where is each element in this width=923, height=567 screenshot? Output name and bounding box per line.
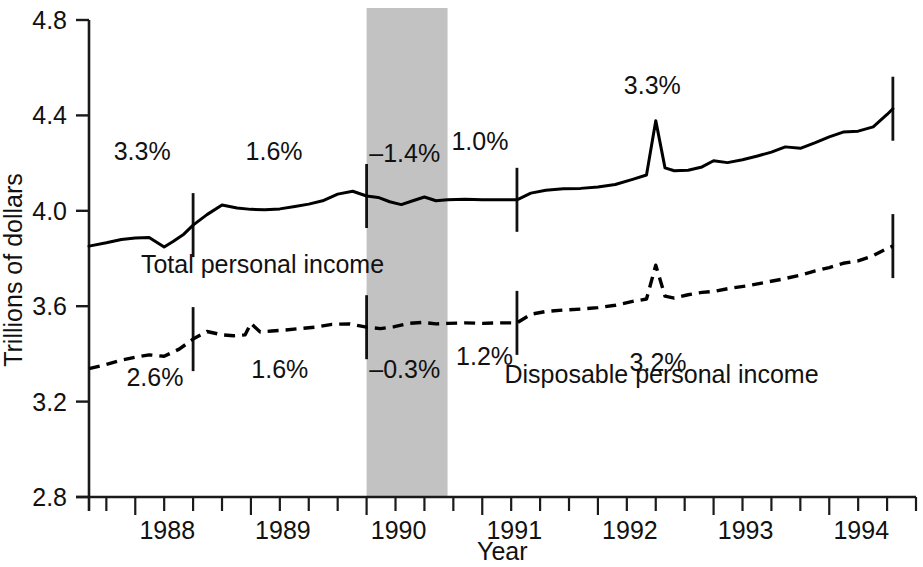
y-tick-label: 3.2 — [32, 388, 67, 416]
x-tick-label: 1994 — [833, 516, 889, 544]
growth-rate-label: 1.6% — [246, 137, 303, 165]
x-axis-title: Year — [477, 537, 528, 565]
growth-rate-label: 2.6% — [126, 363, 183, 391]
x-tick-label: 1992 — [602, 516, 658, 544]
x-tick-label: 1988 — [139, 516, 195, 544]
growth-rate-label: 3.3% — [114, 137, 171, 165]
segment-divider-bars — [193, 77, 893, 371]
series-name-label: Total personal income — [141, 250, 384, 278]
y-tick-label: 4.8 — [32, 6, 67, 34]
growth-rate-label: –0.3% — [369, 355, 440, 383]
income-line-chart: 2.83.23.64.04.44.8 198819891990199119921… — [0, 0, 923, 567]
x-tick-label: 1990 — [371, 516, 427, 544]
series-name-label: Disposable personal income — [505, 360, 819, 388]
growth-rate-label: 1.0% — [451, 127, 508, 155]
y-axis: 2.83.23.64.04.44.8 — [32, 6, 89, 511]
y-tick-label: 3.6 — [32, 292, 67, 320]
x-tick-label: 1989 — [255, 516, 311, 544]
growth-rate-label: 1.6% — [251, 355, 308, 383]
y-tick-label: 4.4 — [32, 101, 67, 129]
y-axis-title: Trillions of dollars — [0, 173, 27, 367]
x-tick-label: 1993 — [718, 516, 774, 544]
y-tick-label: 2.8 — [32, 483, 67, 511]
y-tick-label: 4.0 — [32, 197, 67, 225]
growth-rate-label: 3.3% — [624, 71, 681, 99]
chart-canvas: 2.83.23.64.04.44.8 198819891990199119921… — [0, 0, 923, 567]
growth-rate-label: –1.4% — [369, 139, 440, 167]
